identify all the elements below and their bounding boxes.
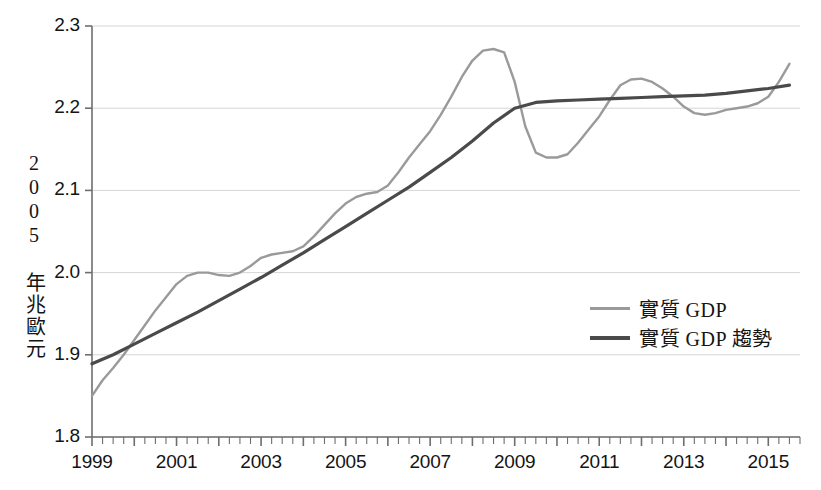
x-tick-label-2015: 2015	[742, 451, 794, 473]
x-axis-minor-ticks	[92, 437, 800, 446]
x-tick-label-2013: 2013	[658, 451, 710, 473]
x-tick-label-2007: 2007	[404, 451, 456, 473]
y-tick-label-1.8: 1.8	[54, 425, 80, 447]
y-tick-label-1.9: 1.9	[54, 343, 80, 365]
chart-legend: 實質 GDP 實質 GDP 趨勢	[590, 294, 805, 352]
y-axis-title: 2005 年兆歐元	[12, 152, 46, 360]
gridlines	[92, 26, 800, 437]
y-tick-label-2.3: 2.3	[54, 14, 80, 36]
x-tick-label-2009: 2009	[489, 451, 541, 473]
y-axis-ticks	[85, 26, 92, 437]
legend-label-real-gdp-trend: 實質 GDP 趨勢	[639, 323, 773, 352]
x-tick-label-2011: 2011	[573, 451, 625, 473]
x-tick-label-1999: 1999	[66, 451, 118, 473]
chart-plot-area	[0, 0, 821, 490]
x-tick-label-2001: 2001	[151, 451, 203, 473]
chart-container: 2005 年兆歐元 2.32.22.12.01.91.8 19992001200…	[0, 0, 821, 490]
legend-item-real-gdp-trend: 實質 GDP 趨勢	[590, 323, 805, 352]
y-tick-label-2.0: 2.0	[54, 261, 80, 283]
y-tick-label-2.1: 2.1	[54, 178, 80, 200]
legend-label-real-gdp: 實質 GDP	[639, 294, 727, 323]
legend-swatch-real-gdp	[590, 307, 630, 310]
x-tick-label-2005: 2005	[320, 451, 372, 473]
y-tick-label-2.2: 2.2	[54, 96, 80, 118]
x-tick-label-2003: 2003	[235, 451, 287, 473]
legend-swatch-real-gdp-trend	[590, 336, 630, 340]
legend-item-real-gdp: 實質 GDP	[590, 294, 805, 323]
